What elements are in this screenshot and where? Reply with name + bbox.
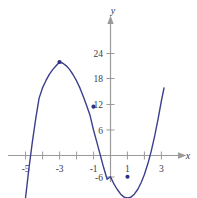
y-tick-label: 18 bbox=[94, 74, 104, 84]
y-tick-label: -6 bbox=[95, 173, 103, 183]
x-tick-label: -3 bbox=[56, 164, 64, 174]
x-tick-label: 1 bbox=[125, 164, 130, 174]
y-tick-label: 12 bbox=[94, 100, 104, 110]
x-axis-label: x bbox=[185, 150, 191, 161]
curve-point-local-maximum bbox=[57, 60, 61, 64]
cubic-function-plot: x y -5 -3 -1 1 3 bbox=[0, 0, 197, 198]
x-tick-label: 3 bbox=[159, 164, 164, 174]
y-tick-label: 6 bbox=[98, 126, 103, 136]
y-tick-label: 24 bbox=[94, 49, 104, 59]
graph-figure: x y -5 -3 -1 1 3 bbox=[0, 0, 197, 198]
curve-point-point-on-curve bbox=[91, 105, 95, 109]
curve-point-local-minimum bbox=[125, 175, 129, 179]
y-axis-label: y bbox=[110, 5, 116, 16]
